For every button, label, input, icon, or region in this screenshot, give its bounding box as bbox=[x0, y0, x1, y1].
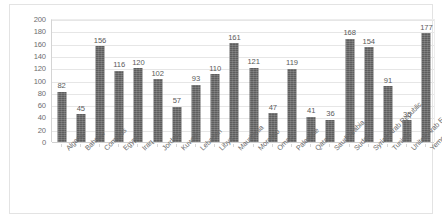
bar-group[interactable]: 36 bbox=[321, 20, 340, 142]
x-axis-tick bbox=[272, 144, 273, 147]
y-axis-tick-label: 20 bbox=[38, 125, 46, 134]
bar-value-label: 102 bbox=[151, 69, 163, 78]
bar-value-label: 57 bbox=[173, 96, 181, 105]
x-axis-category-label: Iraq bbox=[140, 146, 146, 152]
x-axis-category-label: Algeria bbox=[64, 146, 70, 152]
bar-value-label: 110 bbox=[209, 64, 221, 73]
bar-value-label: 41 bbox=[307, 106, 315, 115]
bar-group[interactable]: 93 bbox=[186, 20, 205, 142]
bar[interactable] bbox=[57, 92, 66, 142]
bar[interactable] bbox=[153, 79, 162, 142]
bar-value-label: 121 bbox=[247, 57, 259, 66]
y-axis-tick-label: 160 bbox=[34, 39, 46, 48]
x-axis-category-label: Lebanon bbox=[198, 146, 204, 152]
x-axis-tick bbox=[310, 144, 311, 147]
y-axis-tick-label: 0 bbox=[42, 138, 46, 147]
x-axis-category-label: Mauritania bbox=[236, 146, 242, 152]
y-axis-tick-label: 60 bbox=[38, 101, 46, 110]
bar-value-label: 36 bbox=[326, 109, 334, 118]
x-axis-tick bbox=[214, 144, 215, 147]
bar-value-label: 120 bbox=[132, 58, 144, 67]
chart-frame: 020406080100120140160180200 824515611612… bbox=[9, 4, 433, 214]
x-axis-category-label: Qatar bbox=[313, 146, 319, 152]
y-axis-tick-label: 180 bbox=[34, 27, 46, 36]
x-axis-category-labels: AlgeriaBahrainComorosEgyptIraqJordanKuwa… bbox=[51, 144, 435, 212]
bar-value-label: 82 bbox=[57, 81, 65, 90]
bar-group[interactable]: 156 bbox=[90, 20, 109, 142]
bar-group[interactable]: 47 bbox=[263, 20, 282, 142]
y-axis-tick-label: 200 bbox=[34, 15, 46, 24]
x-axis-category-label: Syrian Arab Republic bbox=[371, 146, 377, 152]
bar-value-label: 119 bbox=[286, 58, 298, 67]
x-axis-tick bbox=[195, 144, 196, 147]
y-axis-tick-label: 100 bbox=[34, 76, 46, 85]
bar-group[interactable]: 57 bbox=[167, 20, 186, 142]
bar-group[interactable]: 102 bbox=[148, 20, 167, 142]
bars-layer: 8245156116120102579311016112147119413616… bbox=[52, 20, 434, 142]
bar-value-label: 177 bbox=[420, 23, 432, 32]
x-axis-category-label: Kuwait bbox=[179, 146, 185, 152]
x-axis-tick bbox=[425, 144, 426, 147]
y-axis-tick-label: 140 bbox=[34, 51, 46, 60]
x-axis-tick bbox=[387, 144, 388, 147]
x-axis-category-label: Saudi Arabia bbox=[332, 146, 338, 152]
bar-value-label: 91 bbox=[384, 76, 392, 85]
x-axis-tick bbox=[233, 144, 234, 147]
bar-group[interactable]: 161 bbox=[225, 20, 244, 142]
bar-value-label: 116 bbox=[113, 60, 125, 69]
x-axis-tick bbox=[99, 144, 100, 147]
x-axis-category-label: United Arab Emirates bbox=[409, 146, 415, 152]
x-axis-category-label: Libya bbox=[217, 146, 223, 152]
bar-value-label: 154 bbox=[363, 37, 375, 46]
x-axis-category-label: Morocco bbox=[256, 146, 262, 152]
x-axis-tick bbox=[157, 144, 158, 147]
bar-group[interactable]: 119 bbox=[282, 20, 301, 142]
y-axis-tick-label: 120 bbox=[34, 64, 46, 73]
x-axis-tick bbox=[329, 144, 330, 147]
bar-group[interactable]: 82 bbox=[52, 20, 71, 142]
x-axis-category-label: Oman bbox=[275, 146, 281, 152]
bar[interactable] bbox=[364, 47, 373, 142]
x-axis-tick bbox=[291, 144, 292, 147]
plot-area: 8245156116120102579311016112147119413616… bbox=[51, 19, 435, 142]
x-axis-category-label: Yemen bbox=[428, 146, 434, 152]
bar-group[interactable]: 116 bbox=[110, 20, 129, 142]
bar-group[interactable]: 110 bbox=[206, 20, 225, 142]
bar-group[interactable]: 120 bbox=[129, 20, 148, 142]
x-axis-category-label: Bahrain bbox=[83, 146, 89, 152]
y-axis-tick-label: 40 bbox=[38, 113, 46, 122]
bar-value-label: 93 bbox=[192, 74, 200, 83]
x-axis-tick bbox=[80, 144, 81, 147]
x-axis-tick bbox=[118, 144, 119, 147]
bar[interactable] bbox=[287, 69, 296, 142]
x-axis-tick bbox=[137, 144, 138, 147]
bar-value-label: 156 bbox=[94, 36, 106, 45]
bar[interactable] bbox=[95, 46, 104, 142]
bar-group[interactable]: 41 bbox=[302, 20, 321, 142]
bar-value-label: 45 bbox=[77, 104, 85, 113]
chart-screenshot: 020406080100120140160180200 824515611612… bbox=[0, 0, 442, 224]
x-axis-category-label: Sudan bbox=[352, 146, 358, 152]
bar-value-label: 161 bbox=[228, 33, 240, 42]
x-axis-category-label: Tunisia bbox=[390, 146, 396, 152]
x-axis-tick bbox=[176, 144, 177, 147]
x-axis-tick bbox=[253, 144, 254, 147]
y-axis-tick-labels: 020406080100120140160180200 bbox=[19, 19, 49, 142]
bar[interactable] bbox=[134, 68, 143, 142]
x-axis-tick bbox=[61, 144, 62, 147]
y-axis-tick-label: 80 bbox=[38, 88, 46, 97]
bar-group[interactable]: 45 bbox=[71, 20, 90, 142]
bar-value-label: 168 bbox=[343, 28, 355, 37]
x-axis-category-label: Palestine bbox=[294, 146, 300, 152]
bar[interactable] bbox=[230, 43, 239, 142]
bar-value-label: 47 bbox=[269, 103, 277, 112]
x-axis-tick bbox=[406, 144, 407, 147]
x-axis-tick bbox=[368, 144, 369, 147]
x-axis-category-label: Comoros bbox=[102, 146, 108, 152]
x-axis-category-label: Jordan bbox=[160, 146, 166, 152]
x-axis-tick bbox=[349, 144, 350, 147]
x-axis-category-label: Egypt bbox=[121, 146, 127, 152]
